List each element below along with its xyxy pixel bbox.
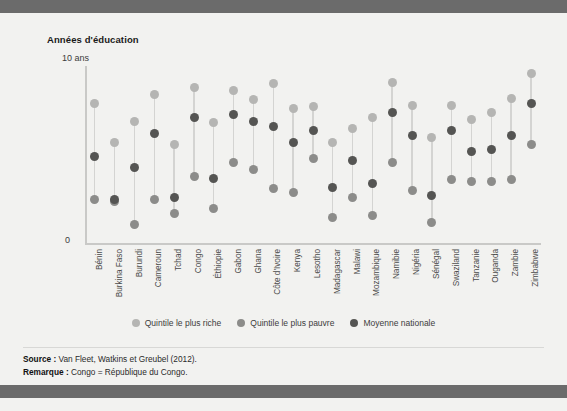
chart-legend: Quintile le plus richeQuintile le plus p… bbox=[0, 318, 567, 328]
x-axis-tick-label: Kenya bbox=[293, 249, 302, 272]
data-point bbox=[229, 158, 238, 167]
x-axis-tick-label: Lesotho bbox=[313, 249, 322, 278]
data-point bbox=[170, 140, 179, 149]
data-point bbox=[289, 138, 298, 147]
column-connector-line bbox=[114, 143, 115, 202]
data-point bbox=[527, 140, 536, 149]
column-connector-line bbox=[134, 121, 135, 224]
country-column: Nigéria bbox=[402, 13, 422, 245]
country-column: Sénégal bbox=[422, 13, 442, 245]
x-axis-tick-label: Burkina Faso bbox=[115, 249, 124, 297]
data-point bbox=[487, 177, 496, 186]
chart-plot-area: Années d'éducation 10 ans 0 BéninBurkina… bbox=[0, 13, 567, 313]
x-axis-tick-label: Bénin bbox=[95, 249, 104, 270]
data-point bbox=[408, 101, 417, 110]
x-axis-tick-label: Nigéria bbox=[412, 249, 421, 275]
y-axis-min-tick-label: 0 bbox=[65, 235, 70, 245]
data-point bbox=[249, 117, 258, 126]
top-band bbox=[0, 0, 567, 13]
legend-label: Quintile le plus riche bbox=[145, 318, 222, 328]
column-connector-line bbox=[411, 105, 412, 190]
data-point bbox=[110, 138, 119, 147]
data-point bbox=[209, 118, 218, 127]
data-point bbox=[309, 126, 318, 135]
data-point bbox=[388, 78, 397, 87]
data-point bbox=[90, 99, 99, 108]
data-point bbox=[190, 83, 199, 92]
column-connector-line bbox=[154, 94, 155, 199]
data-point bbox=[150, 129, 159, 138]
country-column: Namibie bbox=[382, 13, 402, 245]
data-point bbox=[289, 188, 298, 197]
data-point bbox=[467, 115, 476, 124]
column-connector-line bbox=[530, 73, 531, 144]
country-column: Ouganda bbox=[481, 13, 501, 245]
column-connector-line bbox=[193, 87, 194, 176]
data-point bbox=[130, 117, 139, 126]
column-connector-line bbox=[451, 105, 452, 180]
data-point bbox=[309, 102, 318, 111]
column-connector-line bbox=[173, 144, 174, 213]
legend-swatch-icon bbox=[350, 319, 358, 327]
x-axis-tick-label: Malawi bbox=[353, 249, 362, 274]
x-axis-tick-label: Madagascar bbox=[333, 249, 342, 294]
x-axis-tick-label: Congo bbox=[194, 249, 203, 273]
country-column: Bénin bbox=[85, 13, 105, 245]
data-point bbox=[249, 165, 258, 174]
data-point bbox=[487, 145, 496, 154]
data-point bbox=[527, 99, 536, 108]
data-point bbox=[229, 86, 238, 95]
x-axis-tick-label: Namibie bbox=[392, 249, 401, 279]
x-axis-tick-label: Tchad bbox=[174, 249, 183, 271]
bottom-band bbox=[0, 385, 567, 398]
data-point bbox=[269, 79, 278, 88]
data-point bbox=[328, 138, 337, 147]
x-axis-tick-label: Mozambique bbox=[372, 249, 381, 296]
data-point bbox=[150, 195, 159, 204]
data-point bbox=[447, 175, 456, 184]
column-connector-line bbox=[431, 137, 432, 222]
legend-item: Quintile le plus riche bbox=[132, 318, 222, 328]
x-axis-tick-label: Cameroun bbox=[154, 249, 163, 287]
country-column: Kenya bbox=[283, 13, 303, 245]
data-point bbox=[150, 90, 159, 99]
legend-swatch-icon bbox=[132, 319, 140, 327]
data-point bbox=[527, 69, 536, 78]
data-point bbox=[190, 172, 199, 181]
data-point bbox=[507, 94, 516, 103]
data-point bbox=[427, 218, 436, 227]
data-point bbox=[130, 163, 139, 172]
data-point bbox=[368, 211, 377, 220]
data-point bbox=[269, 122, 278, 131]
country-column: Congo bbox=[184, 13, 204, 245]
country-column: Zambie bbox=[501, 13, 521, 245]
data-point bbox=[467, 147, 476, 156]
legend-item: Moyenne nationale bbox=[350, 318, 435, 328]
legend-item: Quintile le plus pauvre bbox=[237, 318, 334, 328]
country-column: Cameroun bbox=[144, 13, 164, 245]
data-point bbox=[467, 177, 476, 186]
country-column: Swaziland bbox=[442, 13, 462, 245]
data-point bbox=[209, 174, 218, 183]
country-column: Tanzanie bbox=[462, 13, 482, 245]
country-column: Madagascar bbox=[323, 13, 343, 245]
country-column: Tchad bbox=[164, 13, 184, 245]
data-point bbox=[447, 101, 456, 110]
data-point bbox=[90, 152, 99, 161]
data-point bbox=[408, 186, 417, 195]
country-column: Burkina Faso bbox=[105, 13, 125, 245]
x-axis-tick-label: Éthiopie bbox=[214, 249, 223, 279]
country-column: Ghana bbox=[244, 13, 264, 245]
country-column: Gabon bbox=[224, 13, 244, 245]
data-point bbox=[328, 183, 337, 192]
data-point bbox=[408, 131, 417, 140]
data-point bbox=[427, 133, 436, 142]
column-connector-line bbox=[233, 91, 234, 162]
column-connector-line bbox=[253, 100, 254, 169]
x-axis-tick-label: Côte d'Ivoire bbox=[273, 249, 282, 295]
data-point bbox=[229, 110, 238, 119]
x-axis-tick-label: Zambie bbox=[511, 249, 520, 276]
country-column: Côte d'Ivoire bbox=[263, 13, 283, 245]
data-point bbox=[170, 209, 179, 218]
column-connector-line bbox=[273, 84, 274, 189]
